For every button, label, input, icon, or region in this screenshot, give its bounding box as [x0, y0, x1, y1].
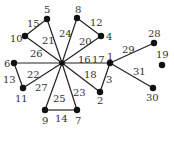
- node-label: 8: [75, 4, 81, 15]
- node-5: [44, 16, 50, 22]
- edge-label: 20: [79, 36, 92, 47]
- node-10: [22, 33, 28, 39]
- edge-label: 22: [27, 69, 40, 80]
- edge-label: 17: [92, 54, 105, 65]
- node-label: 1: [107, 51, 113, 62]
- edge-label: 27: [35, 82, 48, 93]
- node-4: [98, 33, 104, 39]
- node-label: 2: [97, 95, 103, 106]
- node-label: 19: [156, 49, 169, 60]
- edge-label: 23: [73, 87, 86, 98]
- graph-diagram: 1521262412202213272931318252314510846111…: [0, 0, 174, 146]
- node-label: 6: [4, 58, 10, 69]
- edge-label: 15: [27, 18, 40, 29]
- node-label: 7: [75, 115, 81, 126]
- node-label: 5: [44, 4, 50, 15]
- edge-label: 13: [3, 74, 16, 85]
- node-7: [74, 107, 80, 113]
- node-label: 4: [106, 31, 112, 42]
- node-label: 10: [10, 33, 23, 44]
- node-6: [11, 60, 17, 66]
- node-9: [42, 107, 48, 113]
- edge-label: 31: [133, 66, 146, 77]
- edge-label: 29: [122, 44, 135, 55]
- edge-hub-8: [62, 18, 77, 63]
- edge-1-30: [110, 63, 153, 88]
- edge-label: 26: [30, 48, 43, 59]
- edge-label: 16: [78, 54, 91, 65]
- node-28: [151, 40, 157, 46]
- node-label: 9: [42, 115, 48, 126]
- node-hub: [59, 60, 65, 66]
- edge-label: 12: [90, 17, 103, 28]
- node-label: 30: [146, 92, 159, 103]
- node-30: [150, 85, 156, 91]
- labels-layer: 1521262412202213272931318252314510846111…: [3, 4, 169, 126]
- node-8: [74, 15, 80, 21]
- edge-label: 21: [42, 35, 55, 46]
- edge-label: 3: [106, 74, 112, 85]
- node-label: 28: [148, 28, 161, 39]
- edge-label: 14: [55, 113, 68, 124]
- node-label: 11: [15, 93, 28, 104]
- node-11: [20, 85, 26, 91]
- edge-label: 25: [53, 93, 66, 104]
- node-19: [159, 62, 165, 68]
- edge-label: 18: [84, 69, 97, 80]
- edge-label: 24: [59, 28, 72, 39]
